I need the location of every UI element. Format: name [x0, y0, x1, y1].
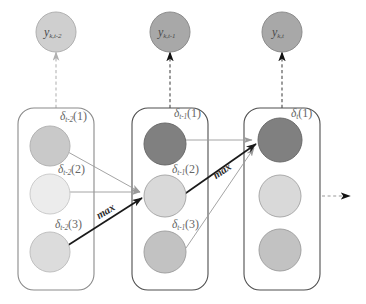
- delta-arg-t-minus-2-1: (1): [73, 109, 87, 123]
- delta-label-t-minus-2-3: δt-2(3): [55, 218, 82, 231]
- state-circle-t-minus-2-3: [30, 232, 70, 272]
- state-circle-t-3: [259, 229, 301, 271]
- diagram-svg: [0, 0, 366, 304]
- delta-arg-t-minus-1-3: (3): [185, 217, 199, 231]
- output-label-t-minus-2: yk,t-2: [44, 25, 61, 40]
- output-label-sub-t: k,t: [277, 32, 284, 40]
- delta-label-t-minus-2-1: δt-2(1): [60, 110, 87, 123]
- delta-arg-t-1: (1): [298, 106, 312, 120]
- delta-sub-t-minus-1-1: t-1: [179, 112, 187, 121]
- delta-sub-t-minus-2-1: t-2: [65, 115, 73, 124]
- output-label-t: yk,t: [272, 25, 284, 40]
- delta-label-t-minus-1-3: δt-1(3): [172, 218, 199, 231]
- output-label-sub-t-minus-1: k,t-1: [163, 32, 175, 40]
- delta-sub-t-minus-2-3: t-2: [60, 223, 68, 232]
- state-circle-t-minus-2-1: [30, 126, 70, 166]
- delta-arg-t-minus-1-1: (1): [187, 106, 201, 120]
- delta-arg-t-minus-1-2: (2): [185, 162, 199, 176]
- diagram-canvas: yk,t-2 yk,t-1 yk,t δt-2(1) δt-2(2) δt-2(…: [0, 0, 366, 304]
- state-circle-t-2: [259, 175, 301, 217]
- state-circle-t-minus-1-1: [144, 123, 186, 165]
- delta-sub-t-minus-1-3: t-1: [177, 223, 185, 232]
- delta-arg-t-minus-2-3: (3): [68, 217, 82, 231]
- delta-sub-t-minus-1-2: t-1: [177, 168, 185, 177]
- delta-sub-t-minus-2-2: t-2: [63, 168, 71, 177]
- delta-label-t-minus-1-2: δt-1(2): [172, 163, 199, 176]
- delta-label-t-minus-1-1: δt-1(1): [174, 107, 201, 120]
- state-circle-t-1: [258, 118, 302, 162]
- output-label-sub-t-minus-2: k,t-2: [49, 32, 61, 40]
- state-circle-t-minus-1-3: [144, 231, 186, 273]
- state-circle-t-minus-2-2: [30, 174, 70, 214]
- output-label-t-minus-1: yk,t-1: [158, 25, 175, 40]
- delta-label-t-1: δt(1): [291, 107, 312, 120]
- delta-arg-t-minus-2-2: (2): [71, 162, 85, 176]
- delta-label-t-minus-2-2: δt-2(2): [58, 163, 85, 176]
- state-circle-t-minus-1-2: [144, 175, 186, 217]
